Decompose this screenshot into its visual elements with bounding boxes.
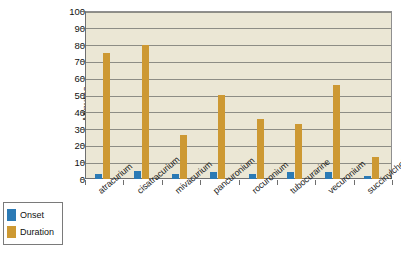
x-axis-label: vecuronium <box>326 159 367 196</box>
chart-legend: OnsetDuration <box>3 202 63 245</box>
legend-swatch <box>7 226 16 238</box>
legend-label: Duration <box>20 227 54 237</box>
x-axis-label: succinylcholine <box>365 150 401 196</box>
x-tick-mark <box>123 180 124 185</box>
x-tick-mark <box>85 180 86 185</box>
x-tick-mark <box>392 180 393 185</box>
x-axis-label: pancuronium <box>211 155 256 195</box>
x-tick-mark <box>315 180 316 185</box>
x-tick-mark <box>162 180 163 185</box>
legend-item: Onset <box>7 206 59 223</box>
x-axis-label: tubocurarine <box>288 157 332 196</box>
x-axis-label: atracurium <box>96 161 134 195</box>
bar-chart: Minutes 0102030405060708090100 atracuriu… <box>0 0 401 254</box>
x-tick-mark <box>200 180 201 185</box>
legend-item: Duration <box>7 223 59 240</box>
legend-label: Onset <box>20 210 44 220</box>
x-axis-label: mivacurium <box>173 159 214 196</box>
x-tick-mark <box>354 180 355 185</box>
x-tick-mark <box>277 180 278 185</box>
legend-swatch <box>7 209 16 221</box>
x-tick-mark <box>239 180 240 185</box>
x-axis-label: rocuronium <box>250 160 290 196</box>
